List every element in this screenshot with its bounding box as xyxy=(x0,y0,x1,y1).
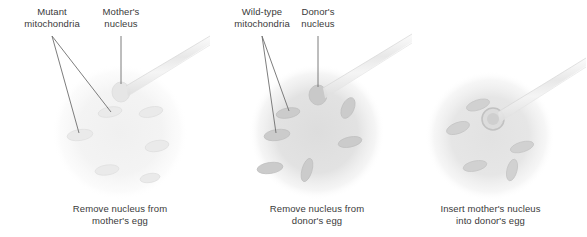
mitochondrial-replacement-figure: Mutant mitochondria Mother's nucleus Wil… xyxy=(0,0,587,237)
caption-panel-3-line-2: into donor's egg xyxy=(398,215,583,227)
label-mothers-nucleus: Mother's nucleus xyxy=(85,6,157,29)
caption-panel-1-line-1: Remove nucleus from xyxy=(20,203,220,215)
label-donors-nucleus-line-2: nucleus xyxy=(283,18,353,30)
label-mothers-nucleus-line-2: nucleus xyxy=(85,18,157,30)
label-donors-nucleus-line-1: Donor's xyxy=(283,6,353,18)
mothers-egg-cell xyxy=(52,36,210,200)
caption-panel-2-line-2: donor's egg xyxy=(217,215,417,227)
caption-panel-3: Insert mother's nucleus into donor's egg xyxy=(398,203,583,227)
caption-panel-2: Remove nucleus from donor's egg xyxy=(217,203,417,227)
label-mothers-nucleus-line-1: Mother's xyxy=(85,6,157,18)
diagram-graphics xyxy=(0,0,587,237)
caption-panel-3-line-1: Insert mother's nucleus xyxy=(398,203,583,215)
caption-panel-2-line-1: Remove nucleus from xyxy=(217,203,417,215)
caption-panel-1-line-2: mother's egg xyxy=(20,215,220,227)
caption-panel-1: Remove nucleus from mother's egg xyxy=(20,203,220,227)
reconstructed-egg-cell xyxy=(425,58,586,201)
label-donors-nucleus: Donor's nucleus xyxy=(283,6,353,29)
